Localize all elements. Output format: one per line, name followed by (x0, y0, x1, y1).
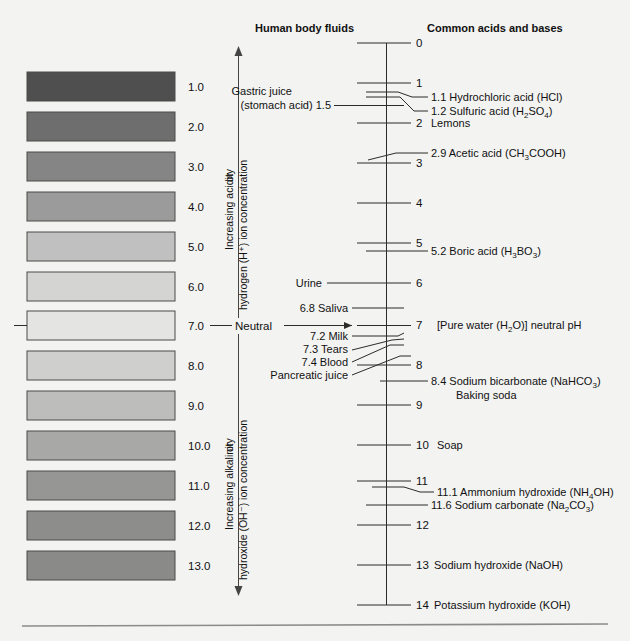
ph-bar-11 (27, 471, 175, 500)
label-sodium-carbonate-co: CO (569, 499, 586, 511)
label-urine: Urine (296, 277, 322, 289)
label-baking-soda: Baking soda (456, 389, 517, 401)
ph-bar-label-13: 13.0 (188, 560, 210, 572)
label-sulfuric-acid-text: 1.2 Sulfuric acid (H (431, 105, 524, 117)
ph-bar-label-4: 4.0 (188, 201, 204, 213)
axis-label-hydrogen-ion-concentration: hydrogen (H⁺) ion concentration (237, 160, 249, 310)
ph-bar-8 (27, 351, 175, 380)
ph-bar-label-11: 11.0 (188, 480, 210, 492)
header-human-body-fluids: Human body fluids (255, 22, 354, 34)
label-sulfuric-acid-close: ) (549, 105, 553, 117)
ph-bar-2 (27, 112, 175, 141)
label-milk: 7.2 Milk (310, 330, 348, 342)
tick-label-4: 4 (416, 197, 423, 209)
tick-label-0: 0 (416, 37, 422, 49)
tick-label-10: 10 (416, 439, 429, 451)
label-boric-acid-close: ) (537, 245, 541, 257)
tick-label-2: 2 (416, 117, 422, 129)
label-soap: Soap (437, 439, 463, 451)
ph-bar-12 (27, 511, 175, 540)
label-sodium-bicarbonate-text: 8.4 Sodium bicarbonate (NaHCO (431, 375, 593, 387)
neutral-label: Neutral (235, 320, 272, 332)
tick-label-7: 7 (416, 319, 422, 331)
ph-bar-1 (27, 72, 175, 101)
tick-label-1: 1 (416, 77, 422, 89)
ph-bar-label-12: 12.0 (188, 520, 210, 532)
label-pure-water-text: [Pure water (H (437, 319, 508, 331)
ph-scale-diagram: Human body fluids Common acids and bases (0, 0, 630, 641)
ph-bar-9 (27, 391, 175, 420)
label-gastric-juice-line1: Gastric juice (231, 85, 292, 97)
ph-scale-figure-page: Human body fluids Common acids and bases (0, 0, 630, 641)
label-tears: 7.3 Tears (303, 343, 349, 355)
ph-bar-6 (27, 272, 175, 301)
ph-bar-label-8: 8.0 (188, 360, 204, 372)
ph-bar-label-9: 9.0 (188, 400, 204, 412)
label-acetic-acid-cooh: COOH) (529, 147, 566, 159)
label-hydrochloric-acid: 1.1 Hydrochloric acid (HCl) (431, 91, 562, 103)
label-pure-water-close: O)] neutral pH (512, 319, 581, 331)
tick-label-14: 14 (416, 599, 429, 611)
ph-bar-label-5: 5.0 (188, 241, 204, 253)
axis-label-or-bottom: or (223, 442, 235, 452)
label-sodium-hydroxide: Sodium hydroxide (NaOH) (434, 559, 563, 571)
ph-bar-3 (27, 152, 175, 181)
label-potassium-hydroxide: Potassium hydroxide (KOH) (434, 599, 570, 611)
ph-bar-13 (27, 551, 175, 580)
tick-label-5: 5 (416, 237, 422, 249)
label-saliva: 6.8 Saliva (300, 302, 349, 314)
label-ammonium-hydroxide-close: OH) (593, 486, 613, 498)
label-sulfuric-acid-so: SO (528, 105, 544, 117)
label-gastric-juice-line2: (stomach acid) 1.5 (241, 99, 331, 111)
tick-label-8: 8 (416, 359, 422, 371)
ph-bar-5 (27, 232, 175, 261)
tick-label-6: 6 (416, 277, 422, 289)
tick-label-9: 9 (416, 399, 422, 411)
label-boric-acid-text: 5.2 Boric acid (H (431, 245, 512, 257)
ph-bar-4 (27, 192, 175, 221)
ph-bar-label-10: 10.0 (188, 440, 210, 452)
ph-bar-label-6: 6.0 (188, 281, 204, 293)
axis-label-hydroxide-ion-concentration: hydroxide (OH⁻) ion concentration (237, 420, 249, 580)
ph-diagram-svg: Human body fluids Common acids and bases (0, 0, 630, 641)
tick-label-3: 3 (416, 157, 422, 169)
tick-label-11: 11 (416, 475, 428, 487)
tick-label-13: 13 (416, 559, 429, 571)
label-lemons: Lemons (431, 117, 471, 129)
label-pancreatic-juice: Pancreatic juice (270, 369, 348, 381)
label-boric-acid-bo: BO (517, 245, 533, 257)
label-acetic-acid-text: 2.9 Acetic acid (CH (431, 147, 525, 159)
label-sodium-carbonate-close: ) (590, 499, 594, 511)
ph-bar-label-3: 3.0 (188, 161, 204, 173)
ph-bar-10 (27, 431, 175, 460)
ph-bar-label-7: 7.0 (188, 320, 204, 332)
label-sodium-bicarbonate-close: ) (597, 375, 601, 387)
label-ammonium-hydroxide-text: 11.1 Ammonium hydroxide (NH (437, 486, 589, 498)
label-sodium-carbonate-text: 11.6 Sodium carbonate (Na (431, 499, 566, 511)
ph-bar-label-2: 2.0 (188, 121, 204, 133)
ph-bar-label-1: 1.0 (188, 81, 204, 93)
label-blood: 7.4 Blood (302, 356, 348, 368)
ph-bar-7 (27, 311, 175, 340)
axis-label-or-top: or (223, 172, 235, 182)
header-common-acids-bases: Common acids and bases (427, 22, 563, 34)
tick-label-12: 12 (416, 519, 429, 531)
